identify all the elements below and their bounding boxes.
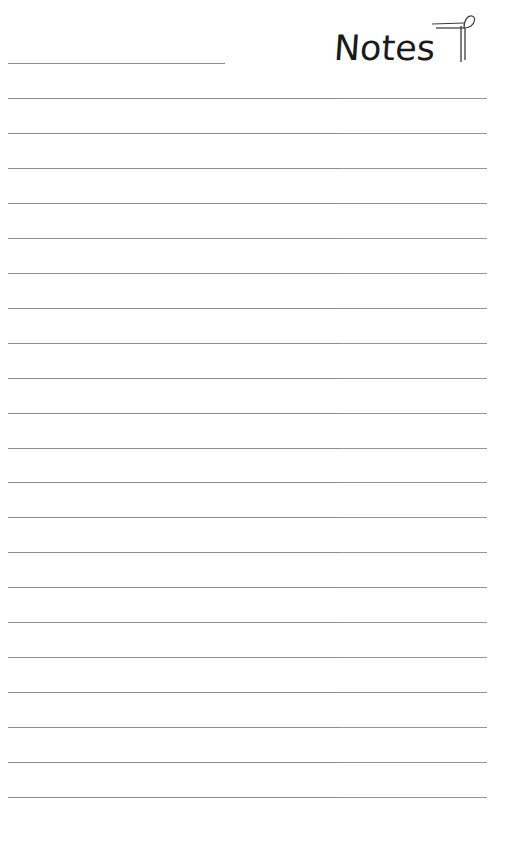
- writing-line-segment: [8, 797, 338, 798]
- writing-line-segment: [338, 657, 487, 658]
- writing-line-segment: [8, 482, 338, 483]
- writing-line[interactable]: [8, 587, 487, 588]
- notes-page: Notes: [0, 0, 511, 855]
- writing-line-segment: [338, 238, 487, 239]
- writing-line-segment: [338, 133, 487, 134]
- writing-line-segment: [8, 692, 338, 693]
- writing-line-segment: [8, 133, 338, 134]
- writing-line[interactable]: [8, 133, 487, 134]
- writing-line-segment: [338, 448, 487, 449]
- writing-line[interactable]: [8, 378, 487, 379]
- writing-line-segment: [8, 622, 338, 623]
- writing-line-segment: [8, 727, 338, 728]
- writing-line[interactable]: [8, 727, 487, 728]
- writing-line-segment: [8, 98, 338, 99]
- writing-line-segment: [8, 552, 338, 553]
- writing-line-segment: [8, 308, 338, 309]
- writing-line[interactable]: [8, 273, 487, 274]
- writing-line-segment: [338, 273, 487, 274]
- writing-line-segment: [338, 482, 487, 483]
- writing-line-segment: [338, 203, 487, 204]
- writing-line[interactable]: [8, 657, 487, 658]
- writing-line-segment: [338, 308, 487, 309]
- writing-line-segment: [338, 797, 487, 798]
- writing-line-segment: [8, 657, 338, 658]
- writing-line[interactable]: [8, 448, 487, 449]
- writing-line-segment: [338, 552, 487, 553]
- writing-line-segment: [338, 413, 487, 414]
- writing-line-segment: [338, 622, 487, 623]
- writing-line[interactable]: [8, 517, 487, 518]
- writing-line-segment: [338, 517, 487, 518]
- writing-line[interactable]: [8, 238, 487, 239]
- writing-line[interactable]: [8, 762, 487, 763]
- writing-line-segment: [8, 273, 338, 274]
- writing-line[interactable]: [8, 168, 487, 169]
- writing-line-segment: [338, 727, 487, 728]
- writing-line-segment: [338, 378, 487, 379]
- writing-line[interactable]: [8, 308, 487, 309]
- writing-line[interactable]: [8, 343, 487, 344]
- writing-line-segment: [338, 168, 487, 169]
- writing-line-segment: [8, 517, 338, 518]
- writing-line[interactable]: [8, 797, 487, 798]
- writing-line[interactable]: [8, 203, 487, 204]
- writing-line-segment: [8, 378, 338, 379]
- writing-line-segment: [8, 762, 338, 763]
- writing-line-segment: [338, 692, 487, 693]
- ruled-lines: [0, 0, 511, 855]
- writing-line[interactable]: [8, 482, 487, 483]
- writing-line[interactable]: [8, 622, 487, 623]
- writing-line-segment: [8, 413, 338, 414]
- writing-line-segment: [8, 203, 338, 204]
- writing-line-segment: [338, 98, 487, 99]
- writing-line-segment: [8, 238, 338, 239]
- writing-line-segment: [338, 762, 487, 763]
- writing-line-segment: [338, 343, 487, 344]
- writing-line-segment: [8, 343, 338, 344]
- writing-line[interactable]: [8, 552, 487, 553]
- writing-line-segment: [338, 587, 487, 588]
- writing-line[interactable]: [8, 98, 487, 99]
- writing-line-segment: [8, 448, 338, 449]
- writing-line-segment: [8, 168, 338, 169]
- writing-line[interactable]: [8, 692, 487, 693]
- writing-line-segment: [8, 587, 338, 588]
- writing-line[interactable]: [8, 413, 487, 414]
